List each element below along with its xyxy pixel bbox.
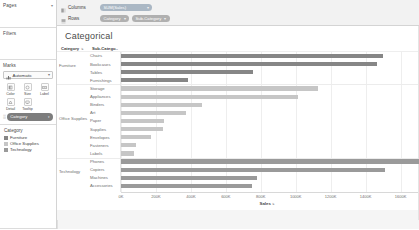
- color-icon: [7, 83, 15, 91]
- row-label-sub-category[interactable]: Labels: [90, 151, 102, 156]
- marks-encoding-row: ░ Category ▾: [0, 112, 56, 121]
- legend-item[interactable]: Technology: [0, 147, 56, 153]
- right-pad: [57, 220, 66, 229]
- x-axis-tick-label: 600K: [221, 194, 230, 199]
- row-label-sub-category[interactable]: Binders: [90, 102, 104, 107]
- bar[interactable]: [121, 184, 252, 188]
- chevron-down-icon[interactable]: ▾: [51, 3, 53, 8]
- pill-sub-category[interactable]: Sub-Category ▾: [132, 15, 170, 23]
- label-icon: [41, 83, 49, 91]
- mark-type-select[interactable]: Automatic ▾: [3, 71, 53, 79]
- marks-card: Marks Automatic ▾ Color: [0, 60, 56, 125]
- color-legend-card: Category Furniture Office Supplies Techn…: [0, 125, 56, 230]
- mark-type-value: Automatic: [13, 73, 47, 78]
- bar[interactable]: [121, 159, 419, 163]
- tableau-workbook-window: Pages ▾ Filters Marks Automatic ▾ Colo: [0, 0, 419, 229]
- x-axis-tick-label: 1000K: [290, 194, 302, 199]
- bar[interactable]: [121, 86, 318, 90]
- row-label-sub-category[interactable]: Furnishings: [90, 78, 112, 83]
- pill-sum-sales[interactable]: SUM(Sales) ▾: [100, 4, 152, 12]
- x-axis-title[interactable]: Sales ⇅: [260, 201, 276, 206]
- marks-size-button[interactable]: Size: [19, 82, 36, 97]
- columns-shelf[interactable]: Columns SUM(Sales) ▾: [57, 2, 419, 13]
- worksheet: Categorical Category ⇅ Sub-Catego.. Chai…: [57, 26, 419, 220]
- bar[interactable]: [121, 168, 385, 172]
- pill-category[interactable]: Category ▾: [100, 15, 129, 23]
- marks-category-pill[interactable]: Category ▾: [7, 113, 53, 121]
- header-category-label: Category: [61, 46, 79, 51]
- row-label-category[interactable]: Furniture: [59, 63, 88, 68]
- row-label-sub-category[interactable]: Bookcases: [90, 62, 110, 67]
- rows-icon: [61, 10, 66, 28]
- x-axis-title-label: Sales: [260, 201, 271, 206]
- pill-sum-sales-label: SUM(Sales): [104, 5, 127, 10]
- sheet-bottom-strip: [57, 210, 418, 220]
- bar[interactable]: [121, 143, 136, 147]
- x-axis-tick-label: 0K: [119, 194, 124, 199]
- sort-icon[interactable]: ⇅: [81, 47, 84, 51]
- sort-icon[interactable]: ⇅: [272, 202, 275, 206]
- header-category[interactable]: Category ⇅: [61, 46, 92, 51]
- bar[interactable]: [121, 176, 257, 180]
- row-label-sub-category[interactable]: Fasteners: [90, 143, 109, 148]
- marks-label-label: Label: [40, 92, 49, 96]
- pages-card: Pages ▾: [0, 0, 56, 28]
- chevron-down-icon: ▾: [48, 73, 50, 77]
- pill-category-label: Category: [104, 16, 121, 21]
- filters-card-title: Filters: [0, 28, 56, 38]
- rows-shelf-well[interactable]: Category ▾ Sub-Category ▾: [100, 14, 416, 23]
- group-separator: [57, 158, 120, 159]
- row-label-sub-category[interactable]: Art: [90, 110, 95, 115]
- x-axis-line: [121, 192, 418, 193]
- marks-size-label: Size: [24, 92, 31, 96]
- row-headers: ChairsBookcasesTablesFurnishingsFurnitur…: [57, 52, 121, 192]
- row-label-sub-category[interactable]: Phones: [90, 159, 104, 164]
- color-encoding-icon: ░: [3, 114, 6, 119]
- group-separator: [121, 84, 418, 85]
- rows-shelf-label: Rows: [61, 10, 97, 28]
- color-legend-title: Category: [0, 125, 56, 135]
- marks-color-label: Color: [6, 92, 15, 96]
- marks-buttons: Color Size Label: [0, 82, 56, 112]
- legend-item-label: Office Supplies: [10, 141, 39, 146]
- bar[interactable]: [121, 119, 164, 123]
- row-label-sub-category[interactable]: Copiers: [90, 167, 104, 172]
- bar[interactable]: [121, 54, 383, 58]
- bar[interactable]: [121, 62, 377, 66]
- chevron-down-icon: ▾: [164, 17, 166, 21]
- tooltip-icon: [24, 98, 32, 106]
- row-label-sub-category[interactable]: Supplies: [90, 127, 106, 132]
- legend-swatch: [4, 136, 8, 140]
- marks-tooltip-label: Tooltip: [22, 107, 32, 111]
- columns-shelf-well[interactable]: SUM(Sales) ▾: [100, 3, 416, 12]
- bar[interactable]: [121, 78, 188, 82]
- header-sub-category[interactable]: Sub-Catego..: [92, 46, 125, 51]
- marks-detail-button[interactable]: Detail: [2, 97, 19, 112]
- row-label-sub-category[interactable]: Paper: [90, 118, 101, 123]
- bar[interactable]: [121, 103, 202, 107]
- x-axis-tick-label: 1200K: [325, 194, 337, 199]
- field-header-row: Category ⇅ Sub-Catego..: [57, 44, 418, 52]
- row-label-sub-category[interactable]: Machines: [90, 175, 108, 180]
- page-title: Categorical: [57, 26, 418, 44]
- row-label-sub-category[interactable]: Storage: [90, 86, 105, 91]
- marks-tooltip-button[interactable]: Tooltip: [19, 97, 36, 112]
- bar[interactable]: [121, 95, 298, 99]
- bar[interactable]: [121, 127, 163, 131]
- rows-shelf[interactable]: Rows Category ▾ Sub-Category ▾: [57, 13, 419, 24]
- shelf-area: Columns SUM(Sales) ▾ Rows: [57, 0, 419, 26]
- bar[interactable]: [121, 70, 253, 74]
- bar[interactable]: [121, 151, 134, 155]
- row-label-sub-category[interactable]: Tables: [90, 70, 102, 75]
- row-label-category[interactable]: Technology: [59, 169, 88, 174]
- row-label-category[interactable]: Office Supplies: [59, 116, 88, 121]
- row-label-sub-category[interactable]: Accessories: [90, 183, 113, 188]
- row-label-sub-category[interactable]: Appliances: [90, 94, 111, 99]
- bar[interactable]: [121, 111, 186, 115]
- bar[interactable]: [121, 135, 151, 139]
- marks-color-button[interactable]: Color: [2, 82, 19, 97]
- row-label-sub-category[interactable]: Chairs: [90, 53, 102, 58]
- row-label-sub-category[interactable]: Envelopes: [90, 135, 110, 140]
- marks-label-button[interactable]: Label: [36, 82, 53, 97]
- detail-icon: [7, 98, 15, 106]
